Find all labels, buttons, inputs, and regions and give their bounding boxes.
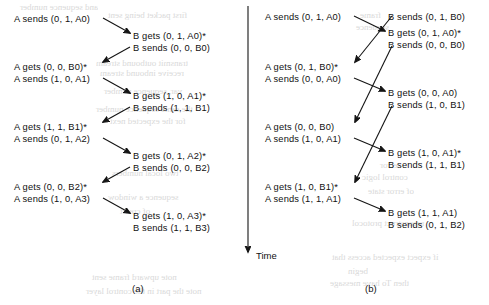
panel-b-event-a-a6: A sends (1, 1, A1) xyxy=(265,194,341,205)
panel-a-arrow-a-to-b-1 xyxy=(103,18,130,33)
panel-b-event-a-a5: A gets (1, 0, B1)* xyxy=(265,182,338,193)
panel-a-event-a-a0: A sends (0, 1, A0) xyxy=(14,14,90,25)
panel-a-event-b-b1: B sends (0, 0, B0) xyxy=(133,43,210,54)
panel-b-event-b-b4: B sends (1, 0, B1) xyxy=(388,100,465,111)
protocol-timing-diagram: and sequence numberfirst packet being se… xyxy=(0,0,489,305)
panel-b-event-b-b2: B sends (0, 0, B0) xyxy=(388,40,465,51)
panel-a-arrow-b-to-a-1 xyxy=(103,47,130,62)
panel-b-arrow-b-to-a-2 xyxy=(355,46,392,122)
panel-b-arrow-a-to-b-2 xyxy=(354,78,385,91)
panel-b-event-a-a2: A sends (0, 0, A0) xyxy=(265,74,341,85)
panel-b-event-b-b0: B sends (0, 1, B0) xyxy=(388,12,465,23)
panel-a-event-b-b4: B gets (0, 1, A2)* xyxy=(133,151,206,162)
panel-a-arrow-a-to-b-3 xyxy=(103,138,130,153)
panel-a-caption: (a) xyxy=(132,283,144,294)
panel-a-event-b-b5: B sends (0, 0, B2) xyxy=(133,163,210,174)
panel-a-event-b-b2: B gets (1, 0, A1)* xyxy=(133,91,206,102)
panel-b-arrow-a-to-b-1 xyxy=(354,16,385,31)
panel-b-arrow-b-to-a-3 xyxy=(355,106,392,182)
panel-a-event-a-a1: A gets (0, 0, B0)* xyxy=(14,62,87,73)
panel-a-event-b-b6: B gets (1, 0, A3)* xyxy=(133,211,206,222)
panel-b-event-a-a3: A gets (0, 0, B0) xyxy=(265,122,334,133)
panel-a-arrow-b-to-a-2 xyxy=(103,107,130,122)
panel-b-event-a-a4: A sends (1, 0, A1) xyxy=(265,134,341,145)
panel-a-arrows xyxy=(103,18,130,213)
time-axis-label: Time xyxy=(256,250,277,261)
panel-b-arrow-a-to-b-3 xyxy=(354,138,385,151)
panel-b-arrows xyxy=(354,16,392,211)
panel-a-event-a-a4: A sends (0, 1, A2) xyxy=(14,134,90,145)
panel-b-event-b-b6: B sends (1, 1, B1) xyxy=(388,160,465,171)
panel-a-event-a-a3: A gets (1, 1, B1)* xyxy=(14,122,87,133)
panel-b-event-b-b1: B gets (0, 1, A0)* xyxy=(388,28,461,39)
panel-a-event-b-b7: B sends (1, 1, B3) xyxy=(133,223,210,234)
panel-b-event-b-b3: B gets (0, 0, A0) xyxy=(388,88,457,99)
panel-b-event-b-b5: B gets (1, 0, A1)* xyxy=(388,148,461,159)
panel-b-arrow-b-to-a-1 xyxy=(355,16,392,62)
panel-b-event-b-b8: B sends (0, 1, B2) xyxy=(388,220,465,231)
panel-a-arrow-a-to-b-4 xyxy=(103,198,130,213)
panel-a-event-b-b0: B gets (0, 1, A0)* xyxy=(133,31,206,42)
panel-a-event-a-a5: A gets (0, 0, B2)* xyxy=(14,182,87,193)
panel-b-arrow-a-to-b-4 xyxy=(354,198,385,211)
panel-a-arrow-a-to-b-2 xyxy=(103,78,130,93)
panel-a-event-a-a6: A sends (1, 0, A3) xyxy=(14,194,90,205)
panel-b-caption: (b) xyxy=(365,283,377,294)
panel-b-event-a-a1: A gets (0, 1, B0)* xyxy=(265,62,338,73)
panel-a-arrow-b-to-a-3 xyxy=(103,167,130,182)
panel-b-event-b-b7: B gets (1, 1, A1) xyxy=(388,208,457,219)
panel-a-event-b-b3: B sends (1, 1, B1) xyxy=(133,103,210,114)
panel-a-event-a-a2: A sends (1, 0, A1) xyxy=(14,74,90,85)
panel-b-event-a-a0: A sends (0, 1, A0) xyxy=(265,12,341,23)
